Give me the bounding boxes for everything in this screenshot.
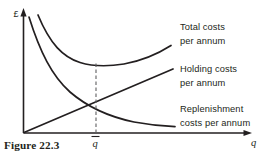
curve-holding-costs (24, 69, 173, 133)
label-total-costs-line2: per annum (180, 36, 226, 46)
label-holding-costs-line2: per annum (180, 78, 226, 88)
optimum-quantity-symbol: q (93, 138, 98, 149)
label-holding-costs-line1: Holding costs (180, 64, 237, 74)
eoq-cost-chart: £ q q Total costs per annum Holding cost… (0, 0, 266, 158)
label-total-costs: Total costs per annum (180, 22, 226, 46)
label-replenishment-costs-line1: Replenishment (180, 104, 244, 114)
label-total-costs-line1: Total costs (180, 22, 225, 32)
label-holding-costs: Holding costs per annum (180, 64, 237, 88)
y-axis-label: £ (14, 9, 19, 19)
figure-container: £ q q Total costs per annum Holding cost… (0, 0, 266, 158)
curve-replenishment-costs (29, 17, 175, 127)
y-axis-arrowhead (20, 8, 26, 17)
label-replenishment-costs: Replenishment costs per annum (180, 104, 250, 128)
figure-caption: Figure 22.3 (4, 139, 60, 151)
x-axis-label: q (251, 137, 256, 148)
label-replenishment-costs-line2: costs per annum (180, 118, 250, 128)
y-axis (20, 8, 26, 133)
x-axis (24, 130, 253, 136)
curve-total-costs (38, 15, 171, 66)
x-axis-arrowhead (244, 130, 253, 136)
optimum-quantity-tick-label: q (92, 137, 100, 150)
